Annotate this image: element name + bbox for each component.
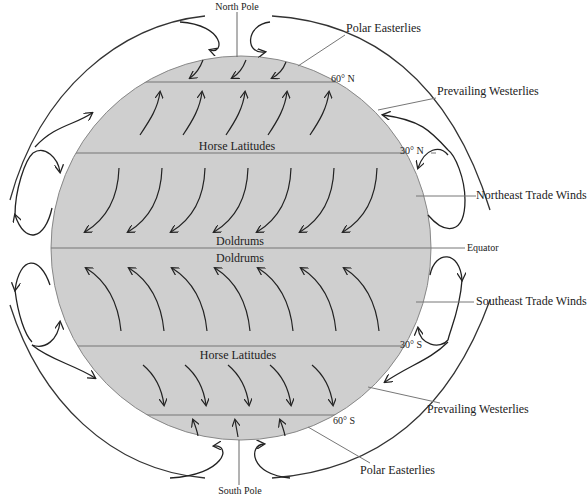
southeast-trade-winds-label: Southeast Trade Winds [476, 295, 587, 307]
horse-latitudes-south-label: Horse Latitudes [200, 349, 276, 361]
latitude-30s-label: 30° S [400, 340, 422, 350]
doldrums-south-label: Doldrums [216, 252, 264, 264]
prevailing-westerlies-north-label: Prevailing Westerlies [437, 85, 539, 97]
horse-latitudes-north-label: Horse Latitudes [199, 140, 275, 152]
latitude-60n-label: 60° N [331, 74, 355, 84]
equator-label: Equator [467, 243, 499, 253]
doldrums-north-label: Doldrums [216, 235, 264, 247]
northeast-trade-winds-label: Northeast Trade Winds [476, 189, 587, 201]
polar-easterlies-north-label: Polar Easterlies [346, 22, 421, 34]
north-pole-label: North Pole [215, 2, 259, 12]
south-pole-label: South Pole [218, 486, 262, 496]
prevailing-westerlies-south-label: Prevailing Westerlies [427, 403, 529, 415]
wind-belts-diagram [0, 0, 588, 498]
polar-easterlies-south-label: Polar Easterlies [360, 464, 435, 476]
latitude-30n-label: 30° N [400, 146, 424, 156]
latitude-60s-label: 60° S [333, 416, 355, 426]
